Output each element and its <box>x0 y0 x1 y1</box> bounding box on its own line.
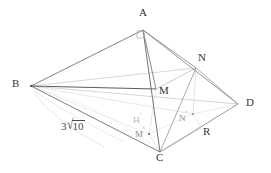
prime-mark-h: ′ <box>140 112 142 121</box>
vertex-label-r: R <box>203 126 210 137</box>
edge-n-d <box>196 68 238 104</box>
vertex-label-b: B <box>12 78 19 89</box>
edge-np-d <box>193 104 238 114</box>
dot-np <box>192 113 194 115</box>
measurement-label-bc: 3√10 <box>61 120 85 132</box>
vertex-label-c: C <box>156 152 163 163</box>
edge-b-a <box>31 30 143 86</box>
dot-b <box>30 85 32 87</box>
projection-label-n-prime: N′ <box>179 111 187 123</box>
radical-coefficient: 3 <box>61 120 67 132</box>
prime-mark-m: ′ <box>143 126 145 135</box>
arc-b-inner <box>33 90 124 142</box>
projection-label-h-prime: H′ <box>133 113 141 125</box>
edge-n-c <box>160 68 196 152</box>
edge-c-d <box>160 104 238 152</box>
projection-label-m-prime-text: M <box>135 129 143 139</box>
edge-b-n <box>31 68 196 86</box>
edge-a-d <box>143 30 238 104</box>
radical-sign-icon: √ <box>67 117 73 132</box>
radical-expression: 3√10 <box>61 120 85 132</box>
figure-canvas <box>0 0 271 173</box>
vertex-label-n: N <box>198 52 206 63</box>
vertex-label-d: D <box>246 97 254 108</box>
edge-np-r <box>193 114 201 128</box>
vertex-label-m: M <box>159 85 169 96</box>
projection-label-m-prime: M′ <box>135 127 145 139</box>
vertex-label-a: A <box>139 7 147 18</box>
radicand-value: 10 <box>72 120 85 132</box>
dot-mp <box>148 133 150 135</box>
geometry-figure: A B C D M N R H′ M′ N′ 3√10 <box>0 0 271 173</box>
prime-mark-n: ′ <box>186 110 188 119</box>
edge-a-c <box>143 30 160 152</box>
